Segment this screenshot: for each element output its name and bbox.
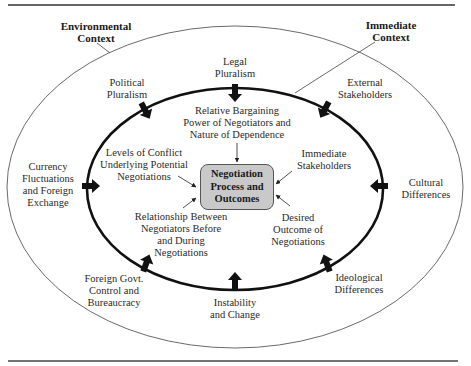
factor-immediate-stakeholders: Immediate Stakeholders [291, 148, 357, 172]
negotiation-process-box: Negotiation Process and Outcomes [200, 164, 274, 210]
arrow-political [135, 100, 156, 122]
environmental-context-label: Environmental Context [50, 20, 142, 44]
factor-political-pluralism: Political Pluralism [92, 77, 162, 101]
factor-currency-fluctuations: Currency Fluctuations and Foreign Exchan… [14, 161, 82, 209]
factor-desired-outcome: Desired Outcome of Negotiations [266, 212, 330, 248]
arrow-relationship [183, 198, 196, 208]
arrow-external [314, 99, 335, 121]
arrow-cultural [370, 179, 388, 193]
factor-relationship-between-negotiators: Relationship Between Negotiators Before … [128, 211, 234, 259]
factor-levels-of-conflict: Levels of Conflict Underlying Potential … [94, 147, 194, 183]
center-label: Negotiation Process and Outcomes [210, 168, 263, 206]
factor-cultural-differences: Cultural Differences [390, 177, 462, 201]
arrow-stakeholders [276, 171, 292, 184]
immediate-context-label: Immediate Context [350, 19, 432, 43]
arrow-legal [228, 84, 242, 102]
factor-relative-bargaining-power: Relative Bargaining Power of Negotiators… [175, 105, 299, 141]
arrow-desired [276, 195, 290, 206]
factor-legal-pluralism: Legal Pluralism [200, 56, 270, 80]
factor-foreign-govt-control: Foreign Govt. Control and Bureaucracy [74, 273, 154, 309]
factor-external-stakeholders: External Stakeholders [325, 77, 405, 101]
factor-ideological-differences: Ideological Differences [322, 272, 396, 296]
factor-instability-and-change: Instability and Change [200, 297, 270, 321]
arrow-instability [228, 272, 242, 290]
environmental-leader-line [97, 43, 110, 53]
